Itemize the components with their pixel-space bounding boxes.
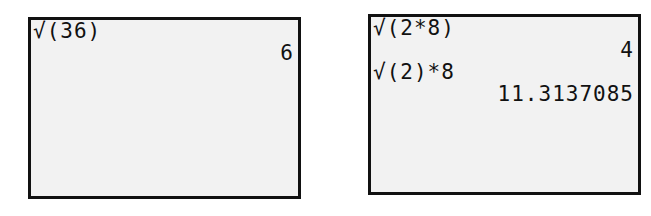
result-line: 11.3137085	[371, 83, 638, 105]
expression-line: √(2)*8	[371, 61, 638, 83]
calculator-screen-left: √(36) 6	[28, 17, 301, 199]
calculator-screen-right: √(2*8) 4 √(2)*8 11.3137085	[368, 14, 641, 195]
result-line: 4	[371, 39, 638, 61]
result-line: 6	[31, 42, 298, 64]
expression-line: √(36)	[31, 20, 298, 42]
expression-line: √(2*8)	[371, 17, 638, 39]
